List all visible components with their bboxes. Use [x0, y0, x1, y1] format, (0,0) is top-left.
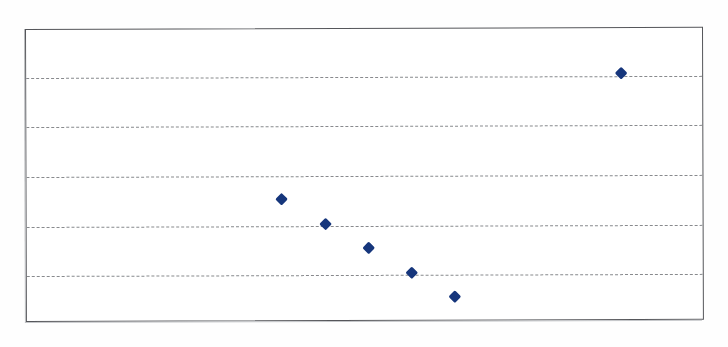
gridline-4: [27, 225, 703, 228]
data-point: [615, 67, 628, 80]
data-point: [405, 266, 418, 279]
gridline-3: [26, 175, 702, 178]
scanned-chart-figure: [0, 0, 728, 347]
plot-area-frame: [25, 27, 704, 322]
gridline-2: [26, 125, 702, 128]
data-point: [319, 218, 332, 231]
gridlines: [26, 28, 702, 30]
gridline-1: [26, 76, 702, 79]
data-point: [362, 242, 375, 255]
data-point: [448, 290, 461, 303]
data-point: [275, 193, 288, 206]
gridline-5: [27, 274, 703, 277]
plot-area: [26, 28, 703, 321]
